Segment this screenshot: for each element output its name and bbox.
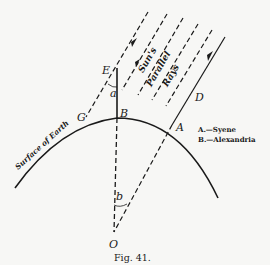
radius-bo: [114, 118, 117, 232]
arrow-icon: [131, 38, 137, 47]
figure-caption: Fig. 41.: [114, 252, 151, 263]
legend-syene: A.—Syene: [197, 125, 237, 134]
sun-rays: [86, 12, 225, 232]
point-d-label: D: [194, 91, 204, 104]
point-o-label: O: [109, 238, 118, 251]
angle-b-arc: [114, 204, 127, 206]
point-b-label: B: [119, 107, 128, 120]
legend-alexandria: B.—Alexandria: [198, 135, 256, 144]
point-g-label: G: [77, 111, 86, 124]
surface-label: Surface of Earth: [13, 119, 70, 172]
point-e-label: E: [101, 64, 110, 77]
angle-a-label: a: [110, 87, 117, 100]
angle-b-label: b: [116, 190, 123, 203]
eratosthenes-diagram: E a G B A D b O Sun's Parallel Rays Surf…: [0, 0, 270, 265]
point-a-label: A: [175, 121, 184, 134]
